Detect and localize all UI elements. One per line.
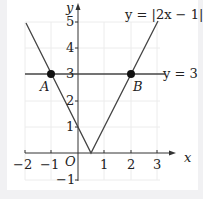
- graph: y x O A B y = |2x − 1| y = 3 −2 −1 1 2 3…: [0, 0, 203, 199]
- point-b: [127, 70, 135, 78]
- y-tick: 2: [66, 93, 74, 108]
- x-tick: −2: [13, 157, 32, 172]
- x-tick: −1: [40, 157, 59, 172]
- point-b-label: B: [132, 79, 143, 94]
- y-tick: 3: [66, 66, 74, 81]
- point-a: [47, 70, 55, 78]
- x-tick: 1: [100, 157, 108, 172]
- x-tick: 3: [153, 157, 161, 172]
- y-tick: −1: [56, 172, 75, 187]
- x-tick: 2: [127, 157, 135, 172]
- y-axis-label: y: [65, 0, 74, 15]
- curve-label: y = |2x − 1|: [124, 7, 203, 22]
- origin-label: O: [65, 154, 76, 169]
- y-tick: 4: [66, 40, 74, 55]
- point-a-label: A: [39, 79, 49, 94]
- x-arrow-icon: [169, 151, 176, 156]
- line-label: y = 3: [162, 66, 198, 81]
- y-tick: 5: [66, 14, 74, 29]
- y-tick: 1: [66, 119, 74, 134]
- y-arrow-icon: [76, 3, 81, 10]
- x-axis-label: x: [184, 150, 192, 165]
